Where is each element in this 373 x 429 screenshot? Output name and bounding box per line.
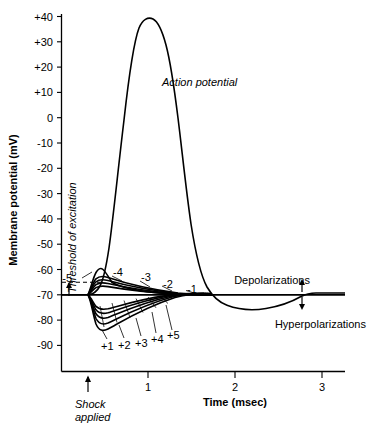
curve-label-p2: +2	[118, 339, 131, 351]
y-tick-label: -40	[37, 213, 53, 225]
shock-applied-label-line1: Shock	[75, 398, 106, 410]
x-axis-title: Time (msec)	[203, 396, 267, 408]
curve-label-m4: -4	[113, 266, 123, 278]
y-axis-title: Membrane potential (mV)	[7, 134, 19, 266]
y-tick-label: -30	[37, 188, 53, 200]
y-tick-label: +40	[34, 11, 53, 23]
depolarizations-label: Depolarizations	[234, 274, 310, 286]
curve-label-p5: +5	[167, 329, 180, 341]
chart-canvas: +40 +30 +20 +10 0 -10 -20 -30 -40 -50 -6…	[0, 0, 373, 429]
y-tick-label: -60	[37, 264, 53, 276]
action-potential-label: Action potential	[161, 76, 238, 88]
curve-label-m5: -5	[62, 272, 72, 284]
x-tick-label: 2	[232, 381, 238, 393]
y-tick-label: -50	[37, 238, 53, 250]
curve-label-p1: +1	[101, 340, 114, 352]
shock-applied-label-line2: applied	[75, 411, 111, 423]
y-tick-label: -70	[37, 289, 53, 301]
y-tick-label: -20	[37, 162, 53, 174]
curve-label-p4: +4	[151, 333, 164, 345]
y-tick-label: +30	[34, 36, 53, 48]
y-tick-label: +20	[34, 61, 53, 73]
chart-background	[0, 0, 373, 429]
y-tick-label: -80	[37, 314, 53, 326]
curve-label-p3: +3	[135, 337, 148, 349]
curve-label-m3: -3	[141, 271, 151, 283]
y-tick-label: 0	[47, 112, 53, 124]
y-tick-label: -90	[37, 339, 53, 351]
action-potential-figure: +40 +30 +20 +10 0 -10 -20 -30 -40 -50 -6…	[0, 0, 373, 429]
y-tick-label: +10	[34, 86, 53, 98]
curve-label-m2: -2	[163, 278, 173, 290]
hyperpolarizations-label: Hyperpolarizations	[275, 318, 367, 330]
curve-label-m1: -1	[187, 283, 197, 295]
x-tick-label: 1	[145, 381, 151, 393]
x-tick-label: 3	[319, 381, 325, 393]
y-tick-label: -10	[37, 137, 53, 149]
